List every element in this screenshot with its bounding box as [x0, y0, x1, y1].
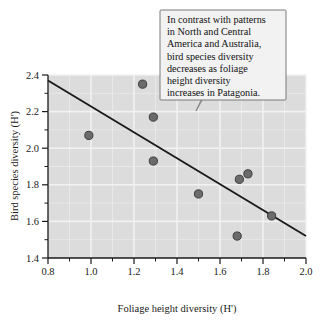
y-tick-label: 2.4: [26, 70, 40, 81]
callout-text-line: decreases as foliage: [167, 63, 248, 74]
x-tick-label: 0.8: [41, 266, 54, 277]
y-tick-label: 1.8: [26, 179, 39, 190]
data-point: [85, 131, 93, 139]
x-tick-label: 1.6: [213, 266, 226, 277]
y-tick-label: 2.2: [26, 106, 39, 117]
x-tick-label: 1.2: [127, 266, 140, 277]
data-point: [233, 232, 241, 240]
x-tick-label: 1.4: [170, 266, 184, 277]
callout-text-line: in North and Central: [167, 26, 251, 37]
chart-canvas: 0.81.01.21.41.61.82.01.41.61.82.02.22.4 …: [0, 0, 330, 325]
callout-text-line: bird species diversity: [167, 51, 254, 62]
data-point: [149, 157, 157, 165]
callout-text-line: increases in Patagonia.: [167, 87, 260, 98]
y-tick-label: 1.6: [26, 216, 39, 227]
data-point: [235, 175, 243, 183]
callout-text-line: America and Australia,: [167, 38, 261, 49]
y-tick-label: 1.4: [26, 253, 40, 264]
scatter-plot-figure: 0.81.01.21.41.61.82.01.41.61.82.02.22.4 …: [0, 0, 330, 325]
data-point: [268, 212, 276, 220]
x-tick-label: 1.8: [256, 266, 269, 277]
x-tick-label: 1.0: [84, 266, 97, 277]
x-axis-title: Foliage height diversity (H'): [118, 303, 237, 315]
data-point: [194, 190, 202, 198]
data-point: [244, 170, 252, 178]
annotation-callout: In contrast with patternsin North and Ce…: [160, 10, 286, 111]
data-point: [149, 113, 157, 121]
data-point: [139, 80, 147, 88]
callout-text-line: In contrast with patterns: [167, 14, 266, 25]
callout-text-line: height diversity: [167, 75, 232, 86]
x-tick-label: 2.0: [299, 266, 312, 277]
y-tick-label: 2.0: [26, 143, 39, 154]
y-axis-title: Bird species diversity (H'): [9, 110, 21, 221]
